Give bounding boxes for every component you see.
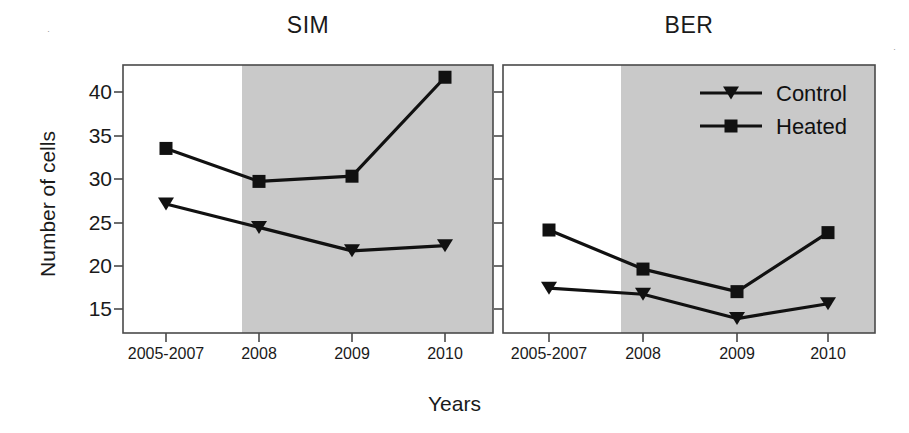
data-point-heated bbox=[543, 224, 556, 237]
data-point-heated bbox=[731, 285, 744, 298]
legend-label-heated: Heated bbox=[776, 114, 847, 139]
data-point-heated bbox=[160, 142, 173, 155]
plot-canvas: ControlHeated bbox=[0, 0, 909, 433]
figure-root: · · SIM BER Number of cells Years 40 35 … bbox=[0, 0, 909, 433]
data-point-heated bbox=[346, 170, 359, 183]
data-point-heated bbox=[253, 175, 266, 188]
panel-ber bbox=[494, 65, 875, 342]
data-point-heated bbox=[822, 226, 835, 239]
legend-label-control: Control bbox=[776, 81, 847, 106]
shaded-warming-region bbox=[242, 65, 493, 333]
data-point-heated bbox=[637, 263, 650, 276]
panel-sim bbox=[114, 65, 493, 342]
data-point-heated bbox=[439, 71, 452, 84]
legend-marker-heated bbox=[725, 120, 738, 133]
